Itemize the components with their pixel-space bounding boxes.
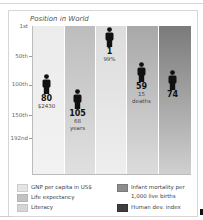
rank-value: 74 [157,90,188,99]
legend-swatch-gnp [17,184,28,192]
annotation: $2430 [31,103,62,110]
annotation: deaths [126,98,157,105]
top-divider [0,3,203,4]
legend-swatch-human-dev-index [117,204,128,212]
rank-value: 59 [126,82,157,91]
bottom-divider [0,216,12,217]
y-tick-192nd: 192nd [4,135,28,141]
annotation: 99% [94,56,125,63]
legend-label-infant-mortality: Infant mortality per [131,184,185,190]
person-icon [168,70,177,90]
legend-swatch-literacy [17,204,28,212]
column-human-dev-index [159,26,191,174]
legend-swatch-infant-mortality [117,184,128,192]
person-icon [73,89,82,109]
person-icon [42,74,51,94]
marker-human-dev-index: 74 [157,70,188,99]
marker-infant-mortality: 59 15 deaths [126,62,157,104]
person-icon [137,62,146,82]
chart-title: Position in World [30,15,89,23]
annotation: years [62,125,93,132]
y-tick-1st: 1st [4,23,28,29]
legend-label-life-expectancy: Life expectancy [31,194,74,200]
legend-label-literacy: Literacy [31,204,53,210]
rank-value: 105 [62,109,93,118]
y-tick-100th: 100th [4,81,28,87]
legend-swatch-life-expectancy [17,194,28,202]
marker-gnp: 80 $2430 [31,74,62,110]
legend-label-gnp: GNP per capita in US$ [31,184,92,190]
y-tick-50th: 50th [4,53,28,59]
marker-literacy: 1 99% [94,27,125,63]
rank-value: 80 [31,94,62,103]
edge-marker [200,209,203,215]
y-tick-150th: 150th [4,112,28,118]
person-icon [105,27,114,47]
legend-label-human-dev-index: Human dev. index [131,204,181,210]
legend-label-infant-mortality-cont: 1,000 live births [131,193,176,199]
marker-life-expectancy: 105 68 years [62,89,93,131]
rank-value: 1 [94,47,125,56]
